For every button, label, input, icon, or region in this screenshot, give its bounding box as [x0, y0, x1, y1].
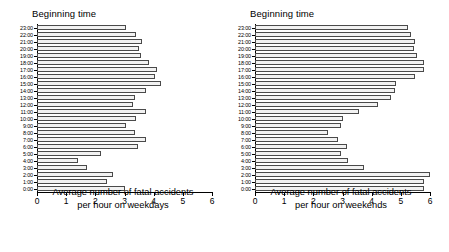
- y-axis-tick: [252, 98, 255, 99]
- y-axis-tick: [34, 133, 37, 134]
- y-axis-tick-label: 16:00: [238, 74, 251, 80]
- y-axis-tick: [252, 56, 255, 57]
- y-axis-tick: [252, 168, 255, 169]
- y-axis-tick-label: 8:00: [23, 130, 33, 136]
- bar: [37, 144, 138, 149]
- y-axis-tick-label: 3:00: [241, 165, 251, 171]
- y-axis-tick: [34, 140, 37, 141]
- y-axis-tick-label: 23:00: [238, 25, 251, 31]
- y-axis-tick: [252, 35, 255, 36]
- x-title-line-2: per hour on weekdays: [30, 199, 216, 212]
- y-axis-tick-label: 15:00: [238, 81, 251, 87]
- bar: [255, 179, 424, 184]
- bar: [255, 158, 348, 163]
- y-axis-tick-label: 8:00: [241, 130, 251, 136]
- y-axis-tick: [252, 105, 255, 106]
- bar-row: 5:00: [37, 150, 212, 157]
- y-axis-tick-label: 5:00: [241, 151, 251, 157]
- y-axis-tick: [34, 175, 37, 176]
- y-axis-tick: [34, 84, 37, 85]
- bar: [37, 130, 135, 135]
- y-axis-tick-label: 20:00: [238, 46, 251, 52]
- bar-row: 11:00: [37, 108, 212, 115]
- bar: [37, 151, 101, 156]
- bar: [37, 53, 141, 58]
- bar: [37, 39, 142, 44]
- y-axis-tick-label: 22:00: [238, 32, 251, 38]
- bar: [37, 88, 146, 93]
- bar-row: 11:00: [255, 108, 430, 115]
- y-axis-tick: [252, 147, 255, 148]
- y-axis-tick-label: 4:00: [241, 158, 251, 164]
- y-axis-tick-label: 9:00: [23, 123, 33, 129]
- weekdays-x-axis-title: Average number of fatal accidents per ho…: [30, 186, 216, 211]
- bar-row: 2:00: [255, 171, 430, 178]
- bar: [37, 25, 126, 30]
- bar: [255, 60, 424, 65]
- y-axis-tick-label: 1:00: [23, 179, 33, 185]
- bar: [255, 88, 395, 93]
- bar: [255, 172, 430, 177]
- bar: [255, 165, 364, 170]
- bar-row: 23:00: [37, 24, 212, 31]
- weekends-panel: Beginning time 23:0022:0021:0020:0019:00…: [224, 0, 448, 252]
- bar: [37, 32, 136, 37]
- y-axis-tick-label: 1:00: [241, 179, 251, 185]
- y-axis-tick: [34, 105, 37, 106]
- weekdays-bar-rows: 23:0022:0021:0020:0019:0018:0017:0016:00…: [37, 24, 212, 192]
- y-axis-tick: [34, 168, 37, 169]
- y-axis-tick-label: 7:00: [23, 137, 33, 143]
- bar: [37, 172, 113, 177]
- y-axis-tick-label: 19:00: [238, 53, 251, 59]
- y-axis-tick-label: 5:00: [23, 151, 33, 157]
- y-axis-tick-label: 2:00: [241, 172, 251, 178]
- y-axis-tick: [34, 126, 37, 127]
- bar: [255, 95, 391, 100]
- bar: [37, 60, 149, 65]
- bar-row: 4:00: [37, 157, 212, 164]
- y-axis-tick: [34, 182, 37, 183]
- x-title-line-1: Average number of fatal accidents: [30, 186, 216, 199]
- bar-row: 5:00: [255, 150, 430, 157]
- y-axis-tick-label: 2:00: [23, 172, 33, 178]
- bar: [255, 39, 415, 44]
- y-axis-tick-label: 15:00: [20, 81, 33, 87]
- y-axis-tick: [252, 63, 255, 64]
- y-axis-tick: [252, 119, 255, 120]
- bar: [255, 123, 341, 128]
- y-axis-tick: [252, 77, 255, 78]
- y-axis-tick-label: 18:00: [20, 60, 33, 66]
- bar-row: 12:00: [37, 101, 212, 108]
- bar-row: 17:00: [37, 66, 212, 73]
- y-axis-tick: [252, 28, 255, 29]
- bar-row: 14:00: [255, 87, 430, 94]
- y-axis-tick-label: 13:00: [238, 95, 251, 101]
- bar: [255, 151, 341, 156]
- y-axis-tick: [34, 161, 37, 162]
- y-axis-tick-label: 13:00: [20, 95, 33, 101]
- bar-row: 7:00: [255, 136, 430, 143]
- y-axis-tick: [252, 140, 255, 141]
- y-axis-tick: [34, 28, 37, 29]
- bar-row: 13:00: [255, 94, 430, 101]
- bar: [255, 74, 415, 79]
- y-axis-tick: [252, 161, 255, 162]
- y-axis-tick: [252, 84, 255, 85]
- y-axis-tick-label: 21:00: [238, 39, 251, 45]
- y-axis-tick-label: 10:00: [238, 116, 251, 122]
- y-axis-tick: [34, 112, 37, 113]
- y-axis-tick-label: 19:00: [20, 53, 33, 59]
- bar-row: 3:00: [255, 164, 430, 171]
- y-axis-tick-label: 23:00: [20, 25, 33, 31]
- y-axis-tick-label: 18:00: [238, 60, 251, 66]
- weekends-bar-rows: 23:0022:0021:0020:0019:0018:0017:0016:00…: [255, 24, 430, 192]
- bar-row: 19:00: [37, 52, 212, 59]
- y-axis-tick: [34, 70, 37, 71]
- bar-row: 14:00: [37, 87, 212, 94]
- bar-row: 15:00: [255, 80, 430, 87]
- bar: [255, 46, 414, 51]
- y-axis-tick-label: 6:00: [241, 144, 251, 150]
- bar-row: 18:00: [255, 59, 430, 66]
- bar-row: 10:00: [37, 115, 212, 122]
- y-axis-tick: [252, 154, 255, 155]
